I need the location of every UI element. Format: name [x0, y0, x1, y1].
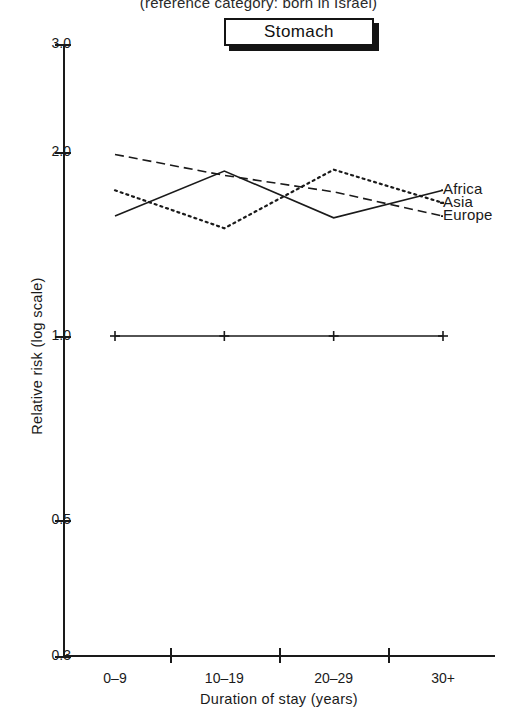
y-axis-title: Relative risk (log scale) — [29, 241, 45, 471]
reference-plus-marker — [219, 331, 229, 341]
plot-area — [0, 0, 517, 711]
reference-plus-marker — [110, 331, 120, 341]
series-line-africa — [115, 171, 443, 218]
reference-plus-marker — [329, 331, 339, 341]
chart-root: (reference category: born in Israel) Sto… — [0, 0, 517, 711]
legend-label-europe: Europe — [443, 206, 493, 223]
x-axis-title: Duration of stay (years) — [63, 691, 495, 707]
series-line-asia — [115, 170, 443, 229]
reference-plus-marker — [438, 331, 448, 341]
series-line-europe — [115, 154, 443, 216]
